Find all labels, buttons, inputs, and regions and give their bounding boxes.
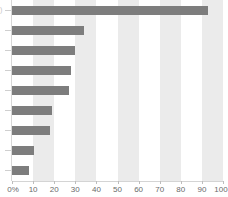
y-axis-tick: [5, 90, 11, 91]
x-axis-label: 100: [214, 185, 227, 195]
x-axis-label: 0%: [7, 185, 19, 195]
y-axis-tick: [5, 10, 11, 11]
x-axis-label: 30: [71, 185, 80, 195]
x-axis-tick: [54, 181, 55, 184]
x-axis-label: 70: [155, 185, 164, 195]
plot-area: [12, 0, 223, 181]
bar: [12, 146, 34, 155]
y-axis-tick: [5, 130, 11, 131]
y-axis-tick: [5, 110, 11, 111]
x-axis-label: 20: [50, 185, 59, 195]
y-axis-tick: [5, 170, 11, 171]
x-axis-tick: [118, 181, 119, 184]
x-axis-label: 60: [134, 185, 143, 195]
y-axis-tick: [5, 150, 11, 151]
axis-band: [118, 0, 139, 181]
bar: [12, 46, 75, 55]
y-axis-tick: [5, 30, 11, 31]
bar: [12, 6, 208, 15]
x-axis-label: 80: [176, 185, 185, 195]
bar: [12, 26, 84, 35]
bar: [12, 106, 52, 115]
x-axis-tick: [223, 181, 224, 184]
x-axis-label: 10: [29, 185, 38, 195]
x-axis-tick: [33, 181, 34, 184]
x-axis-label: 90: [197, 185, 206, 195]
x-axis-tick: [181, 181, 182, 184]
bar: [12, 166, 29, 175]
cropped-category-label: ): [0, 6, 2, 14]
axis-band: [202, 0, 223, 181]
x-axis-tick: [139, 181, 140, 184]
x-axis-tick: [160, 181, 161, 184]
bar-chart: ) 0% 10 20 30 40 50 60 70 80 90 100: [0, 0, 228, 197]
y-axis-tick: [5, 70, 11, 71]
bar: [12, 126, 50, 135]
bar: [12, 66, 71, 75]
x-axis-label: 40: [92, 185, 101, 195]
axis-band: [160, 0, 181, 181]
x-axis-tick: [75, 181, 76, 184]
x-axis-tick: [12, 181, 13, 184]
x-axis-label: 50: [113, 185, 122, 195]
bar: [12, 86, 69, 95]
y-axis-tick: [5, 50, 11, 51]
x-axis-tick: [96, 181, 97, 184]
y-axis-line: [11, 0, 12, 181]
x-axis-tick: [202, 181, 203, 184]
